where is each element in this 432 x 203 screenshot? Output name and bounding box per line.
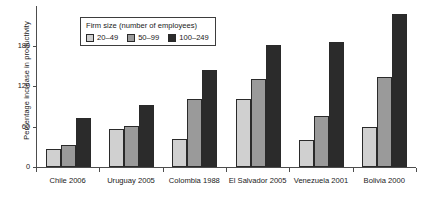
legend: Firm size (number of employees) 20–4950–… <box>80 17 216 46</box>
x-tick-mark <box>163 168 164 172</box>
bar[interactable] <box>377 77 392 167</box>
x-axis-label: El Salvador 2005 <box>226 176 289 185</box>
bar[interactable] <box>109 129 124 167</box>
y-tick-label: 0 <box>26 162 30 171</box>
bar-group <box>353 6 416 167</box>
x-tick-mark <box>36 168 37 172</box>
legend-item[interactable]: 100–249 <box>168 33 209 42</box>
bar[interactable] <box>362 127 377 167</box>
x-axis-label: Uruguay 2005 <box>99 176 162 185</box>
bar[interactable] <box>236 99 251 167</box>
legend-item-label: 50–99 <box>138 33 159 42</box>
y-tick-label: 120 <box>18 81 30 90</box>
bar[interactable] <box>314 116 329 167</box>
x-axis-ticks <box>36 168 416 174</box>
bar[interactable] <box>46 149 61 167</box>
bar[interactable] <box>76 118 91 167</box>
y-tick-label: 180 <box>18 41 30 50</box>
x-axis-label: Venezuela 2001 <box>289 176 352 185</box>
x-axis-labels: Chile 2006Uruguay 2005Colombia 1988El Sa… <box>36 176 416 185</box>
plot-area: 060120180 Firm size (number of employees… <box>36 6 416 168</box>
legend-item-label: 100–249 <box>179 33 209 42</box>
x-axis-label: Colombia 1988 <box>163 176 226 185</box>
x-tick-mark <box>289 168 290 172</box>
x-tick-mark <box>353 168 354 172</box>
legend-item[interactable]: 50–99 <box>127 33 159 42</box>
bar[interactable] <box>392 14 407 167</box>
legend-swatch-icon <box>127 34 135 42</box>
bar[interactable] <box>124 126 139 167</box>
x-tick-mark <box>226 168 227 172</box>
legend-swatch-icon <box>168 34 176 42</box>
bar-chart-figure: Percentage increase in productivity 0601… <box>0 0 432 203</box>
x-tick-mark <box>416 168 417 172</box>
bar[interactable] <box>172 139 187 167</box>
bar[interactable] <box>61 145 76 167</box>
bar[interactable] <box>266 45 281 167</box>
y-tick-label: 60 <box>22 122 30 131</box>
bar[interactable] <box>251 79 266 167</box>
bar[interactable] <box>299 140 314 167</box>
x-tick-mark <box>99 168 100 172</box>
legend-items: 20–4950–99100–249 <box>86 33 209 42</box>
legend-item-label: 20–49 <box>97 33 118 42</box>
legend-item[interactable]: 20–49 <box>86 33 118 42</box>
bar-group <box>227 6 290 167</box>
x-axis-label: Chile 2006 <box>36 176 99 185</box>
bar[interactable] <box>329 42 344 167</box>
bar[interactable] <box>187 99 202 167</box>
bar[interactable] <box>139 105 154 167</box>
x-axis-label: Bolivia 2000 <box>353 176 416 185</box>
bar-group <box>290 6 353 167</box>
bar[interactable] <box>202 70 217 167</box>
legend-swatch-icon <box>86 34 94 42</box>
legend-title: Firm size (number of employees) <box>86 21 209 30</box>
